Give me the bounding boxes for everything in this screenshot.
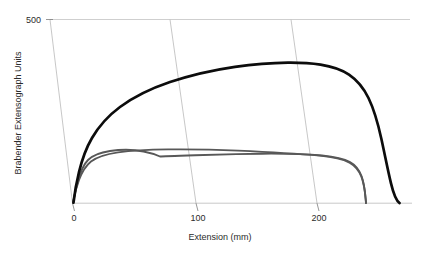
gridline-x100 [170, 20, 196, 204]
series-lower-curve [73, 150, 366, 203]
series-lower-curve-rise [73, 149, 366, 203]
xtick-label-200: 200 [311, 213, 326, 223]
xtick-0-mark [73, 203, 75, 211]
series-upper-curve [74, 63, 400, 204]
xtick-label-100: 100 [190, 213, 205, 223]
x-axis-title: Extension (mm) [188, 232, 251, 242]
chart-plot-area: 0 100 200 500 Extension (mm) Brabender E… [0, 0, 430, 255]
gridline-x0 [50, 20, 73, 204]
xtick-label-0: 0 [71, 213, 76, 223]
gridline-x200 [291, 20, 317, 204]
y-axis-title: Brabender Extensograph Units [13, 51, 23, 175]
ytick-label-500: 500 [26, 15, 41, 25]
xtick-100-mark [196, 203, 198, 211]
xtick-200-mark [317, 203, 319, 211]
extensograph-chart: 0 100 200 500 Extension (mm) Brabender E… [0, 0, 430, 255]
